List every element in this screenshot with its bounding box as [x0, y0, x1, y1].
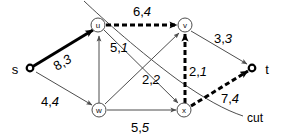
node-label-v: v: [183, 21, 187, 30]
node-label-t: t: [265, 62, 269, 77]
node-label-w: w: [95, 106, 102, 115]
edge-capacity-w-x: 5: [131, 120, 138, 135]
edge-label-v-t: 3,3: [214, 31, 233, 46]
edge-capacity-x-t: 7: [221, 91, 228, 106]
edge-flow-x-t: 4: [232, 91, 239, 106]
edge-flow-w-v: 2: [152, 72, 161, 87]
edge-label-x-t: 7,4: [221, 91, 239, 106]
edge-capacity-x-v: 2: [189, 64, 196, 79]
cut-label: cut: [247, 111, 264, 125]
edge-capacity-w-v: 2: [142, 72, 149, 87]
cut-curve: [84, 1, 243, 116]
edge-label-u-v: 6,4: [133, 4, 151, 19]
node-t[interactable]: [249, 65, 256, 72]
edge-label-s-w: 4,4: [41, 94, 59, 109]
edge-capacity-s-w: 4: [41, 94, 48, 109]
node-label-s: s: [12, 62, 19, 77]
diagram-canvas: u v w x s t 8,3 6,4 3,3 4,4 5,1 2,2 5,5 …: [0, 0, 281, 137]
node-label-u: u: [96, 21, 100, 30]
edge-label-w-x: 5,5: [131, 120, 150, 135]
edge-flow-x-v: 1: [200, 64, 207, 79]
edge-capacity-w-u: 5: [110, 40, 117, 55]
edge-label-w-u: 5,1: [110, 40, 128, 55]
edge-flow-u-v: 4: [144, 4, 151, 19]
edge-flow-w-u: 1: [121, 40, 128, 55]
edge-label-x-v: 2,1: [189, 64, 207, 79]
edge-flow-v-t: 3: [225, 31, 233, 46]
edge-flow-s-w: 4: [52, 94, 59, 109]
edge-capacity-v-t: 3: [214, 31, 221, 46]
flow-network-figure: u v w x s t 8,3 6,4 3,3 4,4 5,1 2,2 5,5 …: [0, 0, 281, 137]
node-s[interactable]: [27, 65, 34, 72]
edge-flow-w-x: 5: [142, 120, 150, 135]
edge-capacity-u-v: 6: [133, 4, 140, 19]
node-label-x: x: [182, 106, 186, 115]
edge-label-w-v: 2,2: [142, 72, 161, 87]
